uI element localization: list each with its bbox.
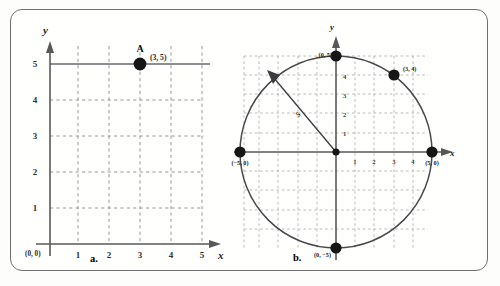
panel-b-y-tick-4: 4 [343, 73, 347, 80]
panel-b-x-tick-3: 3 [392, 158, 396, 165]
panel-a-x-tick-1: 1 [76, 250, 81, 260]
panel-b-center-dot [332, 148, 339, 155]
panel-a-x-axis [36, 240, 221, 248]
panel-b-y-tick-2: 2 [343, 111, 347, 118]
panel-a-caption: a. [90, 253, 98, 264]
panel-b-plot: y x 5 4 3 2 1 1 2 3 4 (0, 5) [248, 12, 488, 264]
panel-a-y-axis [46, 41, 54, 256]
panel-b-x-tick-2: 2 [372, 158, 376, 165]
panel-b-point-on-circle[interactable] [388, 69, 399, 80]
panel-b-point-bottom-label: (0, −5) [314, 251, 331, 259]
panel-a-y-tick-4: 4 [33, 95, 38, 105]
panel-b-point-top-label: (0, 5) [319, 51, 332, 59]
panel-b-y-axis-label: y [329, 22, 335, 32]
figure-container: y x 5 4 3 2 1 1 2 3 4 5 (0, 0) A (3, 5) … [0, 0, 500, 286]
panel-a: y x 5 4 3 2 1 1 2 3 4 5 (0, 0) A (3, 5) … [22, 16, 232, 264]
panel-a-y-axis-label: y [41, 24, 48, 36]
panel-b-point-bottom[interactable] [330, 242, 341, 253]
panel-a-y-tick-3: 3 [33, 131, 38, 141]
panel-a-x-tick-3: 3 [138, 250, 143, 260]
panel-a-y-tick-1: 1 [33, 203, 38, 213]
panel-a-point-a[interactable] [134, 58, 147, 71]
panel-a-y-tick-2: 2 [33, 167, 38, 177]
panel-a-y-tick-5: 5 [33, 59, 38, 69]
panel-a-point-a-coords: (3, 5) [150, 53, 167, 62]
panel-b-point-right[interactable] [426, 146, 437, 157]
panel-b: y x 5 4 3 2 1 1 2 3 4 (0, 5) [248, 12, 488, 264]
panel-b-x-axis [234, 148, 453, 156]
panel-b-point-on-circle-label: (3, 4) [403, 65, 416, 73]
panel-b-point-left-label: (−5, 0) [232, 159, 249, 167]
panel-a-plot: y x 5 4 3 2 1 1 2 3 4 5 (0, 0) A (3, 5) [22, 16, 232, 264]
panel-a-point-a-name: A [136, 43, 144, 54]
panel-b-y-tick-1: 1 [343, 130, 346, 137]
panel-b-x-tick-1: 1 [353, 158, 356, 165]
panel-b-radius-arrow: 5 [267, 70, 336, 152]
panel-a-vertical-gridlines [78, 46, 202, 244]
panel-b-point-top[interactable] [330, 50, 341, 61]
panel-a-x-tick-2: 2 [107, 250, 112, 260]
panel-b-caption: b. [293, 252, 301, 263]
panel-a-x-axis-label: x [217, 249, 224, 261]
panel-a-origin-label: (0, 0) [25, 250, 41, 258]
panel-b-x-axis-label: x [449, 148, 455, 158]
panel-a-x-tick-4: 4 [169, 250, 174, 260]
panel-b-x-tick-4: 4 [411, 158, 415, 165]
panel-b-y-tick-3: 3 [343, 92, 347, 99]
panel-b-point-left[interactable] [234, 146, 245, 157]
panel-b-point-right-label: (5, 0) [425, 159, 438, 167]
panel-a-horizontal-gridlines [50, 100, 204, 208]
panel-a-x-tick-5: 5 [200, 250, 205, 260]
